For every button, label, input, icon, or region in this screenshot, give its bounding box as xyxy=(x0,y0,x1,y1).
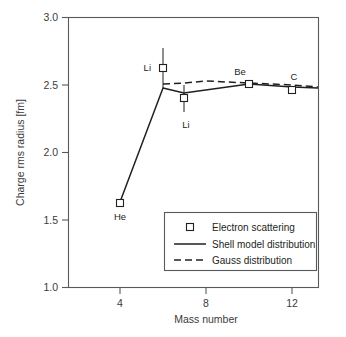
shell-model-distribution-curve xyxy=(120,84,318,202)
y-tick-label-1-5: 1.5 xyxy=(43,214,58,226)
x-axis-title: Mass number xyxy=(174,313,238,325)
y-tick-label-2-0: 2.0 xyxy=(43,146,58,158)
y-axis-title: Charge rms radius [fm] xyxy=(14,99,26,206)
x-tick-label-12: 12 xyxy=(286,297,298,309)
x-tick-label-4: 4 xyxy=(117,297,123,309)
data-point-label-li7: Li xyxy=(182,119,189,130)
x-tick-label-8: 8 xyxy=(203,297,209,309)
y-tick-label-3-0: 3.0 xyxy=(43,11,58,23)
legend-label-electron-scattering: Electron scattering xyxy=(212,222,295,233)
chart-figure: 3.0 2.5 2.0 1.5 1.0 4 8 12 Mass number C… xyxy=(0,0,346,337)
data-point-li7 xyxy=(181,95,188,102)
chart-legend: Electron scattering Shell model distribu… xyxy=(165,213,317,271)
x-axis-ticks xyxy=(120,288,292,295)
data-point-label-li6: Li xyxy=(144,62,151,73)
legend-label-shell-model: Shell model distribution xyxy=(212,239,315,250)
data-point-c xyxy=(289,87,296,94)
legend-symbol-electron-scattering xyxy=(187,224,194,231)
data-point-label-he: He xyxy=(114,211,126,222)
data-point-label-c: C xyxy=(291,71,298,82)
charge-rms-radius-chart: 3.0 2.5 2.0 1.5 1.0 4 8 12 Mass number C… xyxy=(0,0,346,337)
legend-label-gauss: Gauss distribution xyxy=(212,255,292,266)
data-point-li6 xyxy=(160,65,167,72)
y-tick-label-1-0: 1.0 xyxy=(43,281,58,293)
y-tick-label-2-5: 2.5 xyxy=(43,79,58,91)
data-point-he xyxy=(117,200,124,207)
y-axis-ticks xyxy=(62,18,69,288)
data-point-be xyxy=(246,81,253,88)
data-point-label-be: Be xyxy=(234,66,246,77)
